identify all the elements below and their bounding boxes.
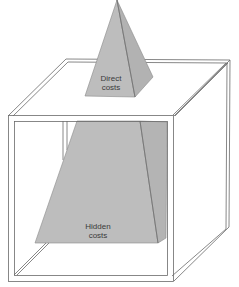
direct-costs-label-line2: costs [102,83,121,92]
hidden-costs-label-line2: costs [89,231,108,240]
box-back-right-edge [172,60,230,281]
hidden-costs-label-line1: Hidden [85,222,110,231]
direct-costs-label-line1: Direct [101,74,123,83]
iceberg-cost-diagram: Direct costs Hidden costs [0,0,239,287]
